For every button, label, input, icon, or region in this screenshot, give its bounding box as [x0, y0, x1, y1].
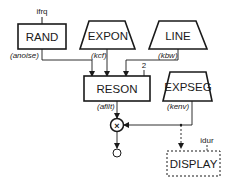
edge-rand-reson	[42, 49, 92, 76]
multiply-node: ×	[111, 119, 124, 132]
expon-label: EXPON	[88, 30, 128, 42]
display-input-label: idur	[200, 136, 214, 145]
expseg-node: EXPSEG (kenv)	[163, 72, 212, 111]
reson-output-label: (afilt)	[97, 102, 115, 111]
rand-input-label: ifrq	[36, 7, 47, 16]
reson-label: RESON	[97, 83, 138, 95]
signal-flow-diagram: ifrq RAND (anoise) EXPON (kcf) LINE (kbw…	[0, 0, 235, 188]
line-label: LINE	[165, 30, 191, 42]
display-label: DISPLAY	[170, 158, 218, 170]
expon-node: EXPON (kcf)	[80, 21, 135, 60]
expseg-output-label: (kenv)	[167, 102, 190, 111]
rand-label: RAND	[26, 31, 59, 43]
rand-output-label: (anoise)	[10, 51, 39, 60]
multiply-icon: ×	[114, 121, 119, 131]
rand-node: ifrq RAND (anoise)	[10, 7, 66, 60]
line-output-label: (kbw)	[158, 51, 178, 60]
reson-param-label: 2	[142, 61, 147, 70]
expon-output-label: (kcf)	[91, 51, 107, 60]
expseg-label: EXPSEG	[164, 81, 211, 93]
output-node	[113, 149, 121, 157]
display-node: idur DISPLAY	[167, 136, 220, 176]
